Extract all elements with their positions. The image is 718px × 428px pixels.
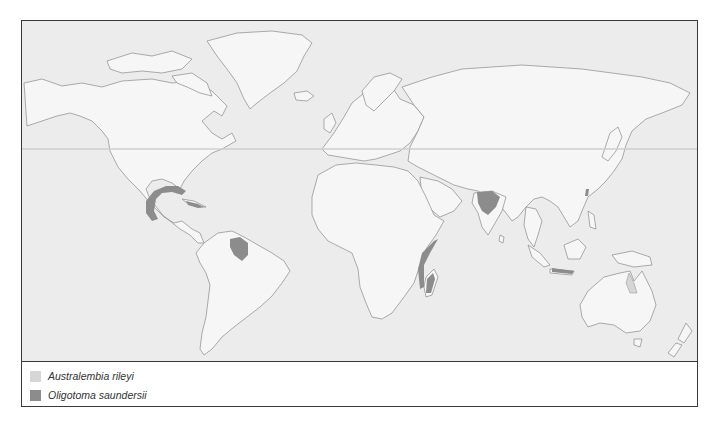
legend-swatch-dark — [30, 390, 41, 401]
borneo — [564, 239, 586, 259]
iceland — [294, 91, 314, 101]
new-guinea — [612, 251, 652, 267]
legend: Australembia rileyi Oligotoma saundersii — [22, 362, 697, 408]
range-gulf-of-mexico — [146, 186, 186, 221]
british-isles — [324, 113, 336, 133]
australia-landmass — [580, 271, 656, 333]
arctic-islands — [107, 51, 192, 73]
world-map — [22, 21, 697, 362]
tasmania — [634, 339, 642, 347]
distribution-map-figure: Australembia rileyi Oligotoma saundersii — [21, 20, 698, 407]
legend-item-australembia-rileyi: Australembia rileyi — [30, 370, 134, 382]
southeast-asia — [524, 207, 542, 247]
legend-label: Australembia rileyi — [48, 370, 134, 382]
north-america-landmass — [24, 79, 236, 243]
sri-lanka — [499, 235, 504, 243]
philippines — [588, 211, 596, 229]
sumatra — [528, 245, 550, 267]
new-zealand — [678, 323, 692, 343]
legend-label: Oligotoma saundersii — [48, 389, 147, 401]
legend-swatch-light — [30, 371, 41, 382]
world-map-svg — [22, 21, 697, 361]
new-zealand-south — [668, 343, 682, 357]
legend-item-oligotoma-saundersii: Oligotoma saundersii — [30, 389, 147, 401]
